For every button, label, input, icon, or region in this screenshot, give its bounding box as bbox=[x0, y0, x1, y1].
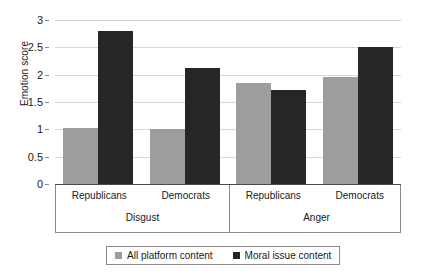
bar bbox=[63, 128, 98, 184]
category-label-democrats: Democrats bbox=[317, 190, 404, 201]
y-tick-mark-2.5 bbox=[45, 47, 49, 48]
bar bbox=[323, 77, 358, 184]
category-subrow: RepublicansDemocrats bbox=[56, 185, 229, 209]
y-tick-label-0: 0 bbox=[37, 179, 43, 190]
chart-legend: All platform contentMoral issue content bbox=[106, 246, 340, 265]
legend-label: All platform content bbox=[127, 250, 213, 261]
y-tick-mark-0.5 bbox=[45, 157, 49, 158]
category-label-republicans: Republicans bbox=[56, 190, 143, 201]
plot-area bbox=[55, 20, 401, 184]
group-label-disgust: Disgust bbox=[56, 212, 229, 223]
group-label-anger: Anger bbox=[230, 212, 403, 223]
bar bbox=[271, 90, 306, 184]
bar bbox=[236, 83, 271, 184]
legend-item: Moral issue content bbox=[233, 250, 332, 261]
category-label-democrats: Democrats bbox=[143, 190, 230, 201]
y-tick-label-0.5: 0.5 bbox=[28, 151, 43, 162]
y-tick-mark-1.5 bbox=[45, 102, 49, 103]
category-group-disgust: RepublicansDemocratsDisgust bbox=[56, 185, 229, 232]
bar bbox=[150, 129, 185, 184]
y-tick-label-2: 2 bbox=[37, 69, 43, 80]
category-axis: RepublicansDemocratsDisgustRepublicansDe… bbox=[55, 185, 401, 233]
category-subrow: RepublicansDemocrats bbox=[230, 185, 403, 209]
bar-chart: Emotion score 00.511.522.53 RepublicansD… bbox=[0, 0, 422, 278]
category-label-republicans: Republicans bbox=[230, 190, 317, 201]
bar bbox=[98, 31, 133, 184]
category-group-anger: RepublicansDemocratsAnger bbox=[229, 185, 403, 232]
y-tick-label-3: 3 bbox=[37, 15, 43, 26]
bar bbox=[358, 47, 393, 184]
y-tick-mark-0 bbox=[45, 184, 49, 185]
legend-item: All platform content bbox=[115, 250, 213, 261]
legend-swatch-icon bbox=[233, 252, 240, 259]
y-tick-mark-2 bbox=[45, 75, 49, 76]
legend-label: Moral issue content bbox=[245, 250, 332, 261]
y-tick-label-2.5: 2.5 bbox=[28, 42, 43, 53]
bar bbox=[185, 68, 220, 184]
bars-layer bbox=[55, 20, 401, 184]
y-tick-mark-3 bbox=[45, 20, 49, 21]
y-tick-label-1.5: 1.5 bbox=[28, 97, 43, 108]
y-tick-mark-1 bbox=[45, 129, 49, 130]
legend-swatch-icon bbox=[115, 252, 122, 259]
y-tick-label-1: 1 bbox=[37, 124, 43, 135]
y-axis-tick-labels: 00.511.522.53 bbox=[0, 20, 49, 184]
